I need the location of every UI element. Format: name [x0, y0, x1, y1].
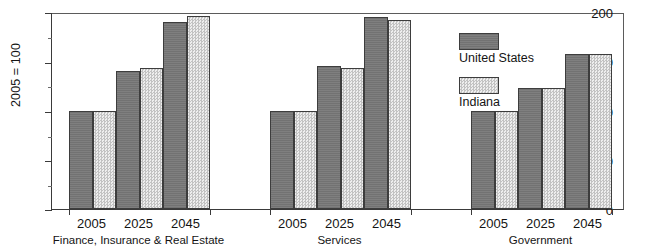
y-tick-minor — [48, 87, 52, 88]
bar — [294, 111, 318, 210]
x-tick-mark — [471, 209, 472, 215]
legend-item-indiana: Indiana — [459, 77, 534, 109]
y-tick-major — [45, 112, 52, 113]
indiana-swatch-icon — [459, 77, 499, 94]
x-tick-mark — [69, 209, 70, 215]
y-tick-major — [45, 63, 52, 64]
x-tick-label-year: 2045 — [357, 217, 417, 231]
bar — [542, 88, 566, 209]
legend-label-united-states: United States — [459, 51, 534, 65]
bar — [93, 111, 117, 210]
y-tick-label: 200 — [573, 7, 613, 20]
bar — [140, 68, 164, 209]
y-tick-major — [45, 161, 52, 162]
bar-chart: 2005 = 100 200150100500 200520252045Fina… — [0, 0, 646, 252]
x-tick-mark — [612, 209, 613, 215]
y-tick-minor — [48, 137, 52, 138]
bar — [471, 111, 495, 210]
bar — [69, 111, 93, 210]
bar — [341, 68, 365, 209]
y-axis-label: 2005 = 100 — [9, 15, 23, 135]
bar — [163, 22, 187, 209]
y-tick-minor — [48, 38, 52, 39]
bar — [116, 71, 140, 209]
legend-label-indiana: Indiana — [459, 95, 534, 109]
bar — [565, 54, 589, 209]
bar — [317, 66, 341, 209]
legend: United States Indiana — [459, 33, 534, 109]
x-tick-mark — [270, 209, 271, 215]
x-tick-mark — [411, 209, 412, 215]
plot-area: 200150100500 — [51, 13, 624, 210]
bar — [388, 20, 412, 209]
bar — [495, 111, 519, 210]
x-tick-label-year: 2045 — [156, 217, 216, 231]
x-tick-label-year: 2045 — [558, 217, 618, 231]
us-swatch-icon — [459, 33, 499, 50]
bar — [270, 111, 294, 210]
legend-item-united-states: United States — [459, 33, 534, 65]
y-tick-major — [45, 210, 52, 211]
bar — [364, 17, 388, 209]
x-tick-mark — [210, 209, 211, 215]
x-axis-group-label: Government — [411, 234, 646, 247]
y-tick-minor — [48, 186, 52, 187]
bar — [589, 54, 613, 209]
y-tick-major — [45, 13, 52, 14]
bar — [187, 16, 211, 209]
